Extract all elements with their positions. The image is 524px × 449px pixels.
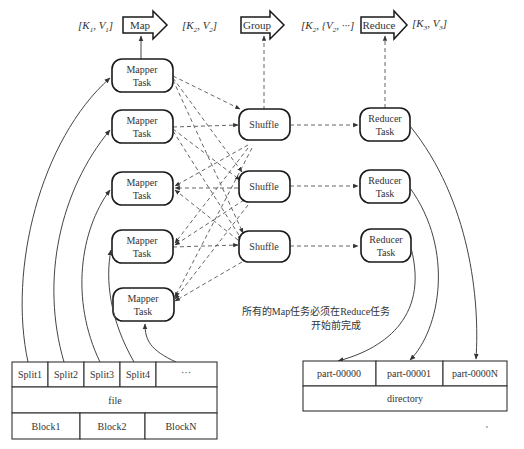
shuffle-reducer-connections [290, 125, 358, 246]
svg-text:[K3, V3]: [K3, V3] [412, 17, 447, 32]
svg-text:Task: Task [133, 128, 152, 139]
part-00001: part-00001 [387, 368, 431, 379]
svg-text:[K2, {V2, ···]: [K2, {V2, ···] [301, 19, 354, 34]
svg-text:Task: Task [133, 77, 152, 88]
split-1: Split1 [18, 369, 42, 380]
directory-label: directory [387, 393, 423, 404]
map-stage-arrow: Map [123, 11, 167, 39]
svg-text:Task: Task [134, 306, 153, 317]
svg-text:Mapper: Mapper [127, 293, 159, 304]
header-kv-input: [K1, V1] [78, 19, 113, 34]
split-3: Split3 [90, 369, 114, 380]
svg-text:Group: Group [243, 19, 272, 31]
header-kv-group-output: [K2, {V2, ···] [301, 19, 354, 34]
shuffle-2: Shuffle [239, 171, 290, 202]
svg-text:Reducer: Reducer [369, 234, 403, 245]
svg-text:Shuffle: Shuffle [249, 241, 279, 252]
reduce-stage-arrow: Reduce [361, 11, 407, 39]
header-kv-map-output: [K2, V2] [182, 19, 217, 34]
block-n: BlockN [165, 421, 196, 432]
split-more: ··· [181, 367, 191, 378]
split-2: Split2 [54, 369, 78, 380]
mapper-task-4: Mapper Task [112, 230, 173, 263]
svg-text:Mapper: Mapper [126, 64, 158, 75]
svg-text:Shuffle: Shuffle [249, 181, 279, 192]
svg-text:Reducer: Reducer [368, 113, 402, 124]
output-directory-table: part-00000 part-00001 part-0000N directo… [303, 361, 507, 411]
svg-text:Task: Task [376, 126, 395, 137]
group-stage-arrow: Group [241, 11, 284, 39]
reducer-task-3: Reducer Task [361, 229, 411, 262]
svg-text:Reducer: Reducer [368, 175, 402, 186]
constraint-note: 所有的Map任务必须在Reduce任务 开始前完成 [242, 305, 390, 331]
svg-text:Mapper: Mapper [126, 177, 158, 188]
svg-text:Reduce: Reduce [363, 19, 396, 31]
mapreduce-diagram: [K1, V1] Map [K2, V2] Group [K2, {V2, ··… [0, 0, 524, 449]
svg-text:Map: Map [130, 19, 151, 31]
svg-text:[K1, V1]: [K1, V1] [78, 19, 113, 34]
svg-text:[K2, V2]: [K2, V2] [182, 19, 217, 34]
svg-text:Task: Task [133, 248, 152, 259]
shuffle-1: Shuffle [239, 109, 290, 140]
svg-text:开始前完成: 开始前完成 [311, 319, 361, 331]
svg-text:Task: Task [133, 190, 152, 201]
svg-text:Mapper: Mapper [126, 235, 158, 246]
mapper-task-2: Mapper Task [112, 110, 173, 143]
mapper-task-5: Mapper Task [113, 288, 174, 321]
mapper-task-3: Mapper Task [112, 172, 173, 205]
block-1: Block1 [32, 421, 61, 432]
svg-text:Mapper: Mapper [126, 115, 158, 126]
shuffle-3: Shuffle [239, 231, 290, 262]
input-file-table: Split1 Split2 Split3 Split4 ··· file Blo… [12, 362, 217, 439]
file-label: file [108, 395, 122, 406]
svg-text:Task: Task [377, 247, 396, 258]
part-0000n: part-0000N [452, 368, 498, 379]
reducer-task-1: Reducer Task [360, 108, 410, 141]
header-kv-reduce-output: [K3, V3] [412, 17, 447, 32]
svg-text:所有的Map任务必须在Reduce任务: 所有的Map任务必须在Reduce任务 [242, 305, 390, 317]
svg-text:Shuffle: Shuffle [249, 119, 279, 130]
part-00000: part-00000 [317, 368, 361, 379]
split-4: Split4 [126, 369, 150, 380]
reducer-task-2: Reducer Task [360, 170, 410, 203]
svg-text:Task: Task [376, 188, 395, 199]
mapper-task-1: Mapper Task [112, 59, 173, 92]
block-2: Block2 [98, 421, 127, 432]
stray-dot [486, 426, 488, 428]
